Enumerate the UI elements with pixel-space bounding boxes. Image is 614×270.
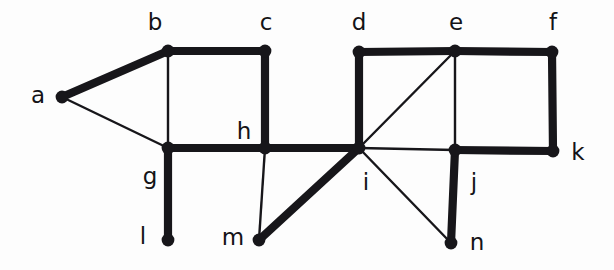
- graph-edge-e-f: [455, 51, 552, 52]
- graph-vertex-label-m: m: [222, 224, 244, 250]
- graph-edge-h-m: [259, 148, 265, 240]
- graph-vertex-h: [259, 142, 272, 155]
- edge-layer: [62, 51, 553, 243]
- graph-vertex-m: [253, 234, 266, 247]
- graph-vertex-b: [162, 45, 175, 58]
- graph-vertex-label-l: l: [140, 223, 146, 249]
- graph-vertex-label-h: h: [237, 118, 252, 144]
- graph-vertex-label-g: g: [143, 163, 158, 189]
- graph-edge-j-k: [455, 150, 553, 151]
- graph-vertex-d: [353, 46, 366, 59]
- graph-vertex-label-a: a: [31, 82, 45, 108]
- graph-vertex-label-j: j: [470, 169, 477, 195]
- graph-vertex-k: [547, 145, 560, 158]
- graph-edge-a-b: [62, 51, 168, 97]
- graph-canvas: abcdefghijklmn: [0, 0, 614, 270]
- graph-vertex-label-c: c: [260, 9, 273, 35]
- graph-edge-i-j: [359, 148, 455, 150]
- graph-edge-m-i: [259, 148, 359, 240]
- graph-edge-d-e: [359, 51, 455, 52]
- graph-edge-i-n: [359, 148, 451, 243]
- graph-vertex-a: [56, 91, 69, 104]
- graph-vertex-label-d: d: [352, 9, 367, 35]
- graph-vertex-label-i: i: [363, 169, 369, 195]
- graph-vertex-label-e: e: [449, 9, 463, 35]
- graph-vertex-label-n: n: [470, 229, 485, 255]
- graph-edge-a-g: [62, 97, 168, 148]
- graph-vertex-j: [449, 144, 462, 157]
- graph-edge-f-k: [552, 52, 553, 151]
- label-layer: abcdefghijklmn: [31, 9, 585, 255]
- graph-edge-e-i: [359, 51, 455, 148]
- graph-vertex-f: [546, 46, 559, 59]
- graph-vertex-e: [449, 45, 462, 58]
- graph-vertex-g: [162, 142, 175, 155]
- graph-vertex-n: [445, 237, 458, 250]
- graph-vertex-i: [353, 142, 366, 155]
- graph-vertex-label-k: k: [571, 139, 585, 165]
- graph-edge-j-n: [451, 150, 455, 243]
- graph-vertex-label-b: b: [148, 9, 163, 35]
- graph-vertex-label-f: f: [549, 9, 558, 35]
- graph-figure: abcdefghijklmn: [0, 0, 614, 270]
- graph-vertex-l: [162, 234, 175, 247]
- graph-vertex-c: [259, 45, 272, 58]
